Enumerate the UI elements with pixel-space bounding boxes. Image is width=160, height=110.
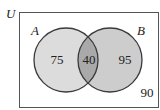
outside-count: 90	[141, 85, 154, 100]
venn-diagram: U A B 75 40 95 90	[0, 0, 160, 110]
set-b-label: B	[137, 23, 145, 38]
intersection-count: 40	[83, 52, 96, 67]
set-b-only-count: 95	[119, 52, 132, 67]
set-a-label: A	[30, 23, 39, 38]
set-a-only-count: 75	[51, 52, 64, 67]
universe-label: U	[6, 6, 17, 21]
